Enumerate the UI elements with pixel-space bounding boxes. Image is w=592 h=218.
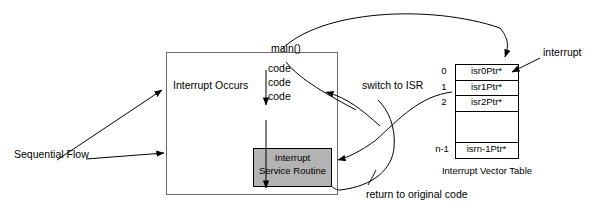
interrupt-lookup-arc: [281, 14, 500, 50]
vector-table-caption: Interrupt Vector Table: [426, 166, 548, 177]
vector-table-cell-0: isr0Ptr*: [455, 66, 518, 77]
vector-table-index-2: 2: [436, 97, 452, 108]
interrupt-lookup-arc-down: [500, 28, 507, 57]
code-line-2: code: [268, 76, 291, 88]
sequential-flow-label: Sequential Flow: [14, 148, 89, 160]
interrupt-label: interrupt: [543, 46, 582, 58]
diagram-canvas: main() Interrupt Occurs code code code I…: [0, 0, 592, 218]
code-line-3: code: [268, 90, 291, 102]
vector-table-index-n-1: n-1: [430, 144, 454, 155]
code-line-1: code: [268, 62, 291, 74]
vector-table-cell-2: isr2Ptr*: [455, 97, 518, 108]
return-label-leader: [368, 170, 376, 185]
vector-table-cell-1: isr1Ptr*: [455, 82, 518, 93]
vector-table-cell-n-1: isrn-1Ptr*: [452, 144, 521, 155]
isr-exit-stub: [331, 186, 340, 190]
return-into-code-curve: [326, 92, 380, 126]
main-function-title: main(): [271, 42, 301, 54]
vector-table-index-1: 1: [436, 82, 452, 93]
isr-box-label-line2: Service Routine: [249, 166, 336, 177]
sequential-flow-arrow-horizontal: [86, 153, 164, 159]
code-to-vector-curve: [286, 62, 356, 110]
interrupt-occurs-label: Interrupt Occurs: [173, 79, 248, 91]
diagram-vector-art: [0, 0, 592, 218]
return-to-original-code-curve: [340, 100, 394, 190]
vector-table-index-0: 0: [436, 66, 452, 77]
switch-to-isr-label: switch to ISR: [362, 79, 423, 91]
return-to-original-code-label: return to original code: [366, 188, 468, 200]
isr-box-label-line1: Interrupt: [253, 153, 332, 164]
